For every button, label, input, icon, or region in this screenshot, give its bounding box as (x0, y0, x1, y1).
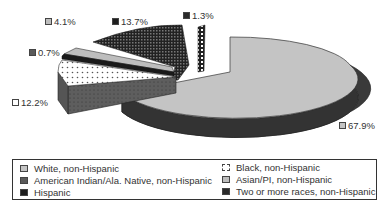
swatch-asian (222, 176, 230, 183)
swatch-aian (29, 49, 36, 56)
label-white: 67.9% (339, 120, 375, 131)
legend-item-two-or-more: Two or more races, non-Hispanic (222, 186, 375, 197)
swatch-asian (45, 18, 52, 25)
swatch-two-or-more (183, 12, 190, 19)
swatch-white (339, 122, 346, 129)
swatch-hispanic (112, 18, 119, 25)
swatch-aian (20, 177, 28, 184)
legend-item-black: Black, non-Hispanic (222, 162, 320, 173)
legend-item-white: White, non-Hispanic (20, 163, 119, 174)
label-asian: 4.1% (45, 16, 76, 27)
slice-two-or-more (198, 25, 205, 72)
label-hispanic: 13.7% (112, 16, 148, 27)
swatch-two-or-more (222, 188, 230, 195)
chart-legend: White, non-Hispanic American Indian/Ala.… (12, 159, 377, 200)
swatch-black (222, 164, 230, 171)
label-aian: 0.7% (29, 47, 60, 58)
legend-item-asian: Asian/PI, non-Hispanic (222, 174, 332, 185)
label-two-or-more: 1.3% (183, 10, 214, 21)
legend-item-aian: American Indian/Ala. Native, non-Hispani… (20, 175, 212, 186)
legend-item-hispanic: Hispanic (20, 187, 70, 198)
label-black: 12.2% (12, 97, 48, 108)
swatch-black (12, 99, 19, 106)
swatch-hispanic (20, 189, 28, 196)
swatch-white (20, 165, 28, 172)
